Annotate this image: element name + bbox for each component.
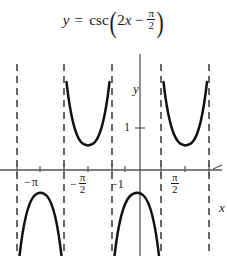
neg-pi-minus-sign: − [24, 175, 31, 189]
equation-function-name: csc [89, 12, 109, 29]
curve-upward-branch-right [164, 82, 208, 145]
cosecant-graph-svg [0, 38, 227, 256]
y-axis-label: y [133, 82, 139, 95]
equation-fraction-pi-over-2: π 2 [147, 8, 155, 31]
curve-downward-branch-center [115, 193, 160, 256]
asymptote-group [17, 64, 209, 256]
graph-plot-area: y x [0, 38, 227, 256]
half-pi-numerator: π [171, 172, 179, 183]
y-tick-label-one: 1 [124, 121, 130, 133]
equation-equals-sign: = [75, 12, 84, 29]
x-tick-label-neg-half-pi: − π 2 [70, 172, 87, 195]
neg-half-pi-wrapper: − π 2 [70, 172, 87, 195]
equation-fraction-numerator: π [147, 8, 155, 19]
neg-half-pi-numerator: π [79, 172, 87, 183]
curve-upward-branch-left [67, 82, 110, 145]
neg-half-pi-denominator: 2 [79, 183, 87, 195]
curve-group [20, 82, 208, 256]
equation-lhs: y [63, 12, 70, 29]
equation-minus-operator: − [135, 12, 144, 29]
neg-pi-symbol: π [32, 175, 38, 189]
x-axis-arrow [213, 165, 222, 169]
equation-title: y = csc ( 2 x − π 2 ) [0, 2, 227, 38]
x-axis-label: x [219, 201, 225, 214]
equation-fraction-denominator: 2 [147, 19, 155, 31]
figure-container: y = csc ( 2 x − π 2 ) [0, 0, 227, 256]
curve-downward-branch-left [20, 193, 62, 256]
x-tick-label-neg-one: −1 [111, 178, 124, 190]
equation-variable: x [125, 12, 132, 29]
half-pi-denominator: 2 [171, 183, 179, 195]
x-tick-label-half-pi: π 2 [170, 172, 180, 195]
neg-half-pi-fraction: π 2 [79, 172, 87, 195]
equation-coefficient: 2 [117, 12, 125, 29]
neg-half-pi-minus-sign: − [70, 178, 77, 190]
x-tick-label-neg-pi: −π [24, 176, 38, 188]
half-pi-fraction: π 2 [171, 172, 179, 195]
